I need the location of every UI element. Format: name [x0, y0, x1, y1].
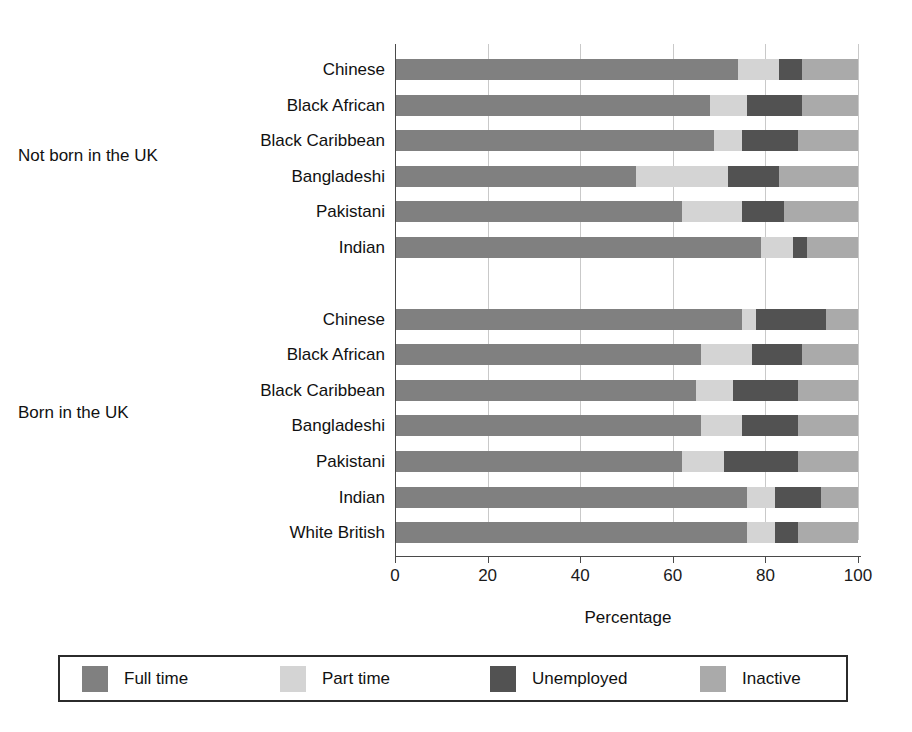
category-label: Chinese — [55, 59, 385, 80]
bar-row — [395, 95, 858, 116]
legend-label: Part time — [322, 669, 390, 689]
bar-segment-full-time — [395, 201, 682, 222]
bar-segment-full-time — [395, 344, 701, 365]
bar-segment-inactive — [826, 309, 858, 330]
bar-segment-unemployed — [742, 415, 798, 436]
bar-segment-part-time — [710, 95, 747, 116]
bar-row — [395, 415, 858, 436]
bar-segment-part-time — [761, 237, 793, 258]
bar-row — [395, 522, 858, 543]
bar-segment-inactive — [802, 59, 858, 80]
bar-segment-unemployed — [775, 487, 821, 508]
bar-segment-full-time — [395, 59, 738, 80]
bar-segment-unemployed — [742, 201, 784, 222]
x-axis-line — [395, 556, 861, 557]
y-axis-line — [395, 44, 396, 556]
bar-segment-part-time — [738, 59, 780, 80]
bar-row — [395, 380, 858, 401]
category-label-column: ChineseBlack AfricanBlack CaribbeanBangl… — [45, 44, 385, 540]
x-axis-title: Percentage — [395, 608, 861, 628]
bar-row — [395, 201, 858, 222]
x-tick-40 — [580, 556, 581, 563]
bar-segment-part-time — [696, 380, 733, 401]
bar-segment-full-time — [395, 130, 714, 151]
bar-segment-part-time — [636, 166, 729, 187]
bar-segment-inactive — [798, 522, 858, 543]
bar-segment-part-time — [701, 344, 752, 365]
category-label: Black Caribbean — [55, 380, 385, 401]
bar-segment-part-time — [747, 522, 775, 543]
legend-item-unemployed[interactable]: Unemployed — [490, 657, 627, 700]
category-label: White British — [55, 522, 385, 543]
bar-segment-inactive — [802, 344, 858, 365]
x-tick-80 — [765, 556, 766, 563]
bar-row — [395, 451, 858, 472]
bar-segment-unemployed — [747, 95, 803, 116]
x-tick-label-100: 100 — [828, 566, 888, 586]
bar-segment-unemployed — [728, 166, 779, 187]
bar-segment-unemployed — [733, 380, 798, 401]
bar-segment-inactive — [784, 201, 858, 222]
bar-segment-inactive — [821, 487, 858, 508]
bar-segment-unemployed — [742, 130, 798, 151]
bar-segment-full-time — [395, 309, 742, 330]
bar-segment-part-time — [682, 201, 742, 222]
bar-segment-full-time — [395, 487, 747, 508]
bar-segment-unemployed — [752, 344, 803, 365]
bar-segment-full-time — [395, 237, 761, 258]
bar-segment-unemployed — [756, 309, 825, 330]
bar-segment-full-time — [395, 415, 701, 436]
bar-row — [395, 130, 858, 151]
x-tick-label-60: 60 — [643, 566, 703, 586]
category-label: Black African — [55, 95, 385, 116]
legend-item-inactive[interactable]: Inactive — [700, 657, 801, 700]
bar-row — [395, 237, 858, 258]
bar-segment-full-time — [395, 522, 747, 543]
bar-segment-full-time — [395, 380, 696, 401]
bar-row — [395, 344, 858, 365]
legend-swatch-icon — [82, 666, 108, 692]
bar-segment-inactive — [802, 95, 858, 116]
bar-segment-part-time — [742, 309, 756, 330]
legend-swatch-icon — [490, 666, 516, 692]
bar-segment-unemployed — [793, 237, 807, 258]
bar-row — [395, 309, 858, 330]
bar-segment-inactive — [798, 130, 858, 151]
legend-label: Inactive — [742, 669, 801, 689]
legend-item-part-time[interactable]: Part time — [280, 657, 390, 700]
x-tick-label-40: 40 — [550, 566, 610, 586]
category-label: Pakistani — [55, 201, 385, 222]
gridline-100 — [858, 44, 859, 540]
legend-label: Full time — [124, 669, 188, 689]
stacked-bar-chart: Not born in the UK Born in the UK Chines… — [0, 0, 912, 732]
category-label: Indian — [55, 487, 385, 508]
x-tick-0 — [395, 556, 396, 563]
x-tick-label-20: 20 — [458, 566, 518, 586]
legend-label: Unemployed — [532, 669, 627, 689]
category-label: Bangladeshi — [55, 166, 385, 187]
category-label: Black African — [55, 344, 385, 365]
bar-segment-full-time — [395, 95, 710, 116]
bar-segment-inactive — [798, 415, 858, 436]
bar-segment-part-time — [682, 451, 724, 472]
x-tick-60 — [673, 556, 674, 563]
plot-area — [395, 44, 858, 540]
category-label: Chinese — [55, 309, 385, 330]
bar-segment-unemployed — [779, 59, 802, 80]
bar-segment-inactive — [798, 380, 858, 401]
bar-segment-unemployed — [724, 451, 798, 472]
bar-row — [395, 166, 858, 187]
category-label: Indian — [55, 237, 385, 258]
x-tick-100 — [858, 556, 859, 563]
bar-segment-inactive — [798, 451, 858, 472]
bar-segment-inactive — [779, 166, 858, 187]
x-tick-label-80: 80 — [735, 566, 795, 586]
bar-segment-full-time — [395, 166, 636, 187]
bar-row — [395, 59, 858, 80]
bar-segment-part-time — [714, 130, 742, 151]
bar-segment-inactive — [807, 237, 858, 258]
bar-segment-full-time — [395, 451, 682, 472]
category-label: Pakistani — [55, 451, 385, 472]
legend-item-full-time[interactable]: Full time — [82, 657, 188, 700]
legend-swatch-icon — [280, 666, 306, 692]
